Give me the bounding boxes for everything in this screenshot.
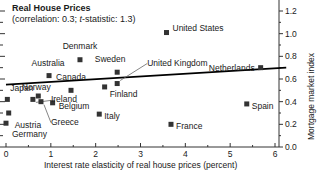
x-tick-label: 1 [48, 149, 53, 159]
data-point-label: Denmark [63, 42, 97, 51]
y-tick-label: 0.0 [285, 142, 297, 152]
data-point-marker [244, 101, 249, 106]
data-point-marker [36, 94, 41, 99]
y-tick-label: 0.8 [285, 51, 297, 61]
data-point-marker [4, 121, 9, 126]
x-tick-label: 3 [138, 149, 143, 159]
data-point-marker [47, 73, 52, 78]
data-point-label: Australia [31, 59, 64, 68]
data-point-marker [69, 88, 74, 93]
data-point-marker [6, 111, 11, 116]
x-tick-label: 5 [228, 149, 233, 159]
y-tick-label: 1.0 [285, 29, 297, 39]
data-point-label: Finland [110, 90, 138, 99]
data-point-label: Netherlands [209, 64, 255, 73]
chart-container: Real House Prices (correlation: 0.3; t-s… [0, 0, 319, 176]
data-point-marker [102, 84, 107, 89]
data-point-label: United States [173, 24, 224, 33]
data-point-label: Germany [12, 130, 47, 139]
data-point-label: Spain [252, 102, 274, 111]
data-point-label: France [176, 122, 202, 131]
data-point-marker [115, 70, 120, 75]
data-point-label: Italy [104, 112, 120, 121]
label-leader-line [120, 64, 147, 81]
x-tick-label: 2 [93, 149, 98, 159]
y-tick-label: 0.6 [285, 74, 297, 84]
x-axis-title: Interest rate elasticity of real house p… [44, 160, 237, 170]
data-point-marker [38, 99, 43, 104]
y-tick-label: 0.4 [285, 97, 297, 107]
data-point-marker [77, 57, 82, 62]
data-point-label: Belgium [59, 102, 90, 111]
x-tick-label: 6 [273, 149, 278, 159]
data-point-label: Norway [22, 83, 51, 92]
data-point-label: Sweden [95, 55, 126, 64]
data-point-label: United Kingdom [147, 59, 207, 68]
data-point-label: Canada [56, 73, 86, 82]
data-point-marker [5, 97, 10, 102]
data-point-marker [164, 30, 169, 35]
y-tick-label: 1.2 [285, 6, 297, 16]
x-tick-label: 0 [4, 149, 9, 159]
y-axis-title: Mortgage market index [306, 53, 316, 140]
data-point-marker [168, 122, 173, 127]
data-point-marker [97, 112, 102, 117]
label-leader-line [44, 105, 51, 123]
y-tick-label: 0.2 [285, 119, 297, 129]
data-point-marker [115, 81, 120, 86]
data-point-label: Greece [51, 118, 79, 127]
data-point-marker [258, 65, 263, 70]
data-point-marker [30, 97, 35, 102]
x-tick-label: 4 [183, 149, 188, 159]
